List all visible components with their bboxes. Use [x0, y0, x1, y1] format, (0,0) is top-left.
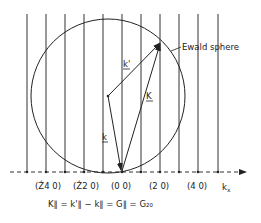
- lattice-rods: [27, 14, 218, 172]
- rod-label: (4 0): [187, 181, 207, 191]
- equation: K∥ = k'∥ − k∥ = G∥ = G₂₀: [48, 199, 153, 209]
- rod-label: (0 0): [111, 181, 131, 191]
- rod-label: (Ź4 0): [35, 180, 61, 191]
- ewald-sphere-label: Ewald sphere: [182, 42, 239, 52]
- ewald-diagram: k' K k Ewald sphere (Ź4 0) (Ź2 0) (0 0) …: [0, 0, 261, 223]
- label-k: k: [102, 132, 107, 142]
- kx-axis-label: kx: [222, 182, 231, 193]
- label-k-prime: k': [123, 59, 130, 69]
- rod-label: (Ź2 0): [73, 180, 99, 191]
- vector-k: [108, 96, 121, 170]
- sphere-center: [107, 95, 110, 98]
- label-K: K: [146, 91, 152, 101]
- rod-label: (2 0): [149, 181, 169, 191]
